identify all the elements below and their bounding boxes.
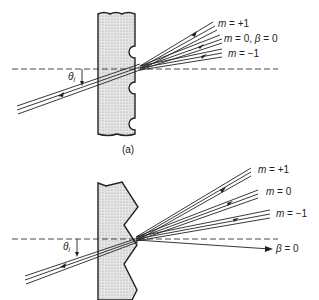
panel-b: θi m = +1 m = 0 m = −1 [12,164,308,300]
order-arrow-icon [198,44,204,49]
theta-i-label-a: θi [68,71,75,83]
incident-arrow-icon [58,92,64,97]
order-label-m-plus1-b: m = +1 [258,164,290,175]
order-label-m0-a: m = 0, β = 0 [224,33,278,44]
beta-arrow-icon [265,246,273,252]
sawtooth-grating-body [98,182,138,300]
theta-i-label-b: θi [63,241,70,253]
diffracted-rays-a [140,22,222,70]
panel-a-caption: (a) [122,144,134,155]
order-label-m-minus1-b: m = −1 [276,208,308,219]
beta-zero-label-b: β = 0 [275,243,299,254]
diffracted-rays-b [136,168,270,249]
order-label-m-minus1-a: m = −1 [228,48,260,59]
order-label-m0-b: m = 0 [266,186,292,197]
order-arrow-icon [201,54,207,59]
panel-a: θi m = +1 m = 0, β = 0 m = −1 [12,13,278,156]
diffraction-grating-figure: θi m = +1 m = 0, β = 0 m = −1 [0,0,319,300]
order-label-m-plus1-a: m = +1 [218,18,250,29]
